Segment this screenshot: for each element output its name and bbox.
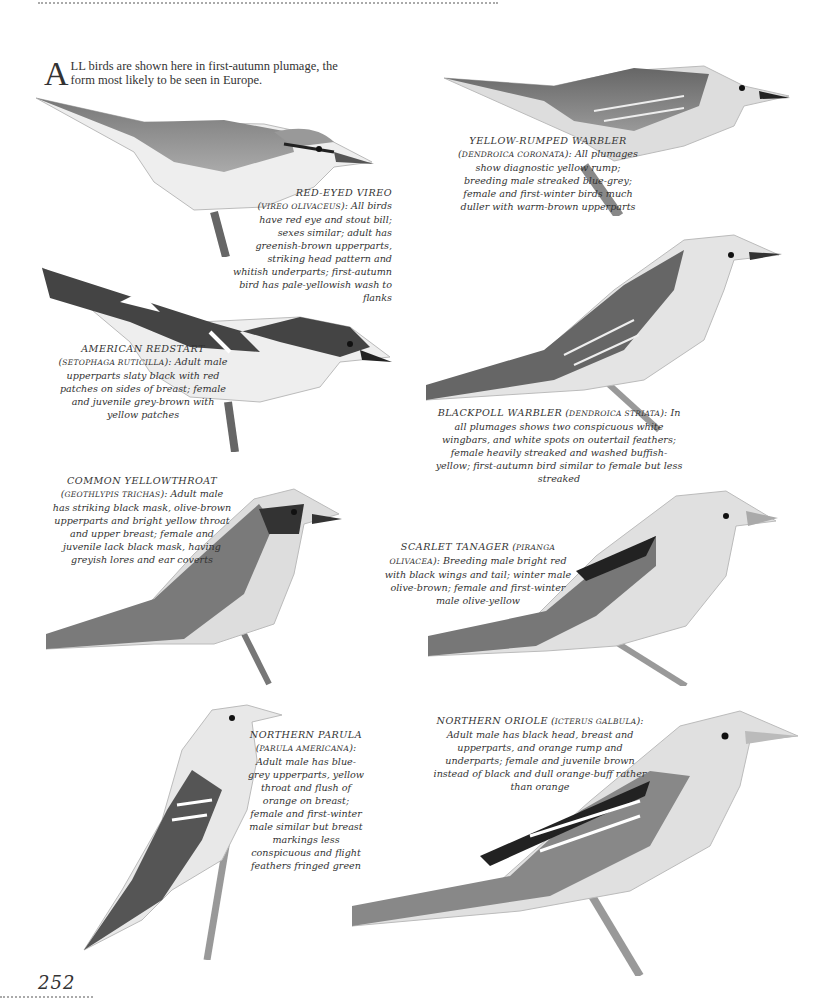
- intro-text: LL birds are shown here in first-autumn …: [71, 59, 338, 87]
- species-description: In all plumages shows two conspicuous wh…: [436, 407, 683, 484]
- caption-scarlet-tanager: SCARLET TANAGER (Piranga olivacea): Bree…: [378, 540, 578, 607]
- page-number: 252: [38, 972, 75, 993]
- species-description: Adult male has blue-grey upperparts, yel…: [248, 756, 364, 871]
- species-name: COMMON YELLOWTHROAT: [67, 475, 217, 486]
- scientific-name: Dendroica coronata: [462, 150, 565, 159]
- scientific-name: Vireo olivaceus: [261, 202, 341, 211]
- species-name: SCARLET TANAGER: [401, 541, 509, 552]
- caption-northern-parula: NORTHERN PARULA (Parula americana): Adul…: [246, 728, 366, 872]
- caption-northern-oriole: NORTHERN ORIOLE (Icterus galbula): Adult…: [430, 714, 650, 793]
- species-name: NORTHERN PARULA: [250, 729, 362, 740]
- top-dotted-rule: [38, 2, 498, 4]
- caption-blackpoll-warbler: BLACKPOLL WARBLER (Dendroica striata): I…: [434, 406, 684, 485]
- scientific-name: Parula americana: [260, 744, 350, 753]
- species-name: YELLOW-RUMPED WARBLER: [469, 135, 626, 146]
- bottom-dotted-rule: [0, 996, 93, 998]
- species-description: Adult male has black head, breast and up…: [434, 729, 647, 792]
- intro-paragraph: ALL birds are shown here in first-autumn…: [44, 59, 344, 88]
- intro-dropcap: A: [44, 60, 69, 88]
- species-description: Adult male has striking black mask, oliv…: [53, 488, 232, 565]
- species-name: NORTHERN ORIOLE: [437, 715, 548, 726]
- species-name: RED-EYED VIREO: [296, 187, 392, 198]
- caption-common-yellowthroat: COMMON YELLOWTHROAT (Geothlypis trichas)…: [52, 474, 232, 566]
- species-name: BLACKPOLL WARBLER: [438, 407, 563, 418]
- scientific-name: Setophaga ruticilla: [62, 358, 164, 367]
- scientific-name: Dendroica striata: [569, 409, 660, 418]
- caption-american-redstart: AMERICAN REDSTART (Setophaga ruticilla):…: [58, 342, 228, 421]
- species-name: AMERICAN REDSTART: [81, 343, 205, 354]
- caption-yellow-rumped-warbler: YELLOW-RUMPED WARBLER (Dendroica coronat…: [458, 134, 638, 213]
- scientific-name: Geothlypis trichas: [64, 490, 160, 499]
- scientific-name: Icterus galbula: [555, 717, 637, 726]
